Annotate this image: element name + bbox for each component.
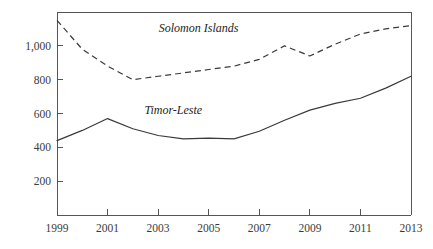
- plot-area-background: [57, 12, 411, 215]
- y-axis-tick-labels: 1,000 800 600 400 200: [25, 40, 51, 187]
- line-chart-svg: 1,000 800 600 400 200 1999 2001 2003 200…: [0, 0, 433, 249]
- y-tick-label-1000: 1,000: [25, 40, 51, 53]
- x-tick-label-2005: 2005: [197, 222, 220, 234]
- x-tick-label-2009: 2009: [298, 222, 321, 234]
- y-tick-label-200: 200: [34, 175, 52, 187]
- series-annotation-timor-leste: Timor-Leste: [144, 103, 202, 117]
- x-tick-label-2013: 2013: [400, 222, 423, 234]
- x-tick-label-1999: 1999: [46, 222, 69, 234]
- y-tick-label-800: 800: [34, 74, 52, 86]
- x-tick-label-2001: 2001: [96, 222, 119, 234]
- y-tick-label-400: 400: [34, 141, 52, 153]
- x-tick-label-2011: 2011: [349, 222, 372, 234]
- chart-figure: 1,000 800 600 400 200 1999 2001 2003 200…: [0, 0, 433, 249]
- x-tick-label-2003: 2003: [147, 222, 170, 234]
- x-axis-tick-labels: 1999 2001 2003 2005 2007 2009 2011 2013: [46, 222, 423, 234]
- y-tick-label-600: 600: [34, 108, 52, 120]
- x-tick-label-2007: 2007: [248, 222, 271, 234]
- series-annotation-solomon-islands: Solomon Islands: [159, 21, 239, 35]
